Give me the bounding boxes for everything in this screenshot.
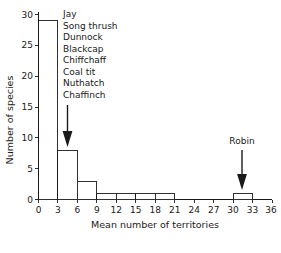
x-tick-label: 9: [94, 205, 100, 215]
species-label-chiffchaff: Chiffchaff: [63, 55, 107, 65]
bar-0-3: [39, 21, 58, 200]
species-label-blackcap: Blackcap: [63, 44, 104, 54]
x-tick-label: 24: [188, 205, 200, 215]
x-tick-label: 3: [55, 205, 61, 215]
x-tick-label: 33: [247, 205, 258, 215]
y-tick-label: 0: [27, 195, 33, 205]
x-axis-title: Mean number of territories: [91, 219, 219, 230]
x-tick-labels: 0 3 6 9 12 15 18 21 24 27 30 33 36: [36, 205, 277, 215]
x-tick-label: 6: [75, 205, 81, 215]
species-label-nuthatch: Nuthatch: [63, 78, 104, 88]
bar-18-21: [155, 193, 174, 199]
y-tick-label: 10: [22, 133, 34, 143]
y-axis-title: Number of species: [4, 76, 15, 165]
bar-3-6: [58, 150, 77, 199]
bar-33-36: [233, 193, 252, 199]
y-tick-labels: 30 25 20 15 10 5 0: [22, 10, 34, 205]
species-label-song-thrush: Song thrush: [63, 21, 118, 31]
robin-arrow-icon: [237, 150, 247, 190]
x-tick-label: 30: [227, 205, 239, 215]
species-label-coal-tit: Coal tit: [63, 67, 96, 77]
robin-label: Robin: [229, 136, 254, 146]
bar-6-9: [77, 181, 96, 200]
x-tick-label: 27: [208, 205, 219, 215]
histogram-svg: Number of species 30 25 20 15 10 5 0: [0, 0, 281, 253]
x-tick-label: 21: [169, 205, 180, 215]
x-tick-label: 15: [130, 205, 141, 215]
species-label-jay: Jay: [62, 9, 77, 19]
bar-15-18: [136, 193, 155, 199]
y-tick-label: 25: [22, 40, 33, 50]
x-tick-label: 18: [150, 205, 162, 215]
x-tick-label: 36: [265, 205, 277, 215]
species-label-chaffinch: Chaffinch: [63, 90, 106, 100]
bar-12-15: [116, 193, 135, 199]
x-tick-label: 0: [36, 205, 42, 215]
x-tick-label: 12: [111, 205, 122, 215]
species-arrow-icon: [63, 105, 73, 147]
y-tick-label: 15: [22, 102, 33, 112]
bar-9-12: [97, 193, 116, 199]
y-tick-label: 5: [27, 164, 33, 174]
histogram-chart: Number of species 30 25 20 15 10 5 0: [0, 0, 281, 253]
species-annotation-list: Jay Song thrush Dunnock Blackcap Chiffch…: [62, 9, 118, 100]
y-tick-label: 30: [22, 10, 34, 20]
species-label-dunnock: Dunnock: [63, 32, 103, 42]
y-tick-label: 20: [22, 71, 34, 81]
